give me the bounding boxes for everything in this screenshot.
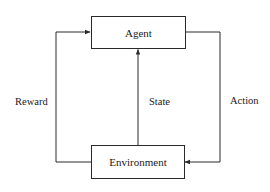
action-label: Action — [230, 96, 259, 107]
agent-label: Agent — [125, 27, 152, 39]
action-arrow — [185, 32, 220, 162]
state-label: State — [149, 97, 170, 108]
rl-diagram: Agent Environment Reward State Action — [0, 0, 270, 192]
reward-label: Reward — [15, 97, 48, 108]
agent-node: Agent — [91, 16, 186, 49]
environment-node: Environment — [91, 145, 185, 179]
reward-arrow — [56, 32, 91, 162]
environment-label: Environment — [109, 156, 166, 168]
